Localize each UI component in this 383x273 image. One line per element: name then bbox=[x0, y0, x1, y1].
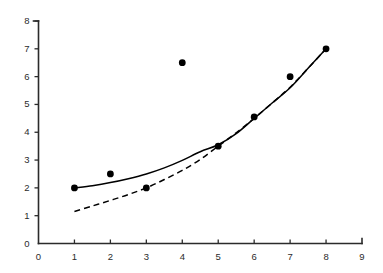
x-tick-label: 6 bbox=[252, 251, 257, 262]
fit-curve-solid bbox=[74, 49, 326, 188]
x-tick-label: 8 bbox=[323, 251, 328, 262]
y-tick-label: 0 bbox=[24, 238, 29, 249]
x-tick-label: 2 bbox=[108, 251, 113, 262]
data-point-marker bbox=[323, 45, 330, 52]
data-point-marker bbox=[143, 184, 150, 191]
fit-curve-dashed bbox=[74, 49, 326, 212]
x-tick-label: 1 bbox=[72, 251, 77, 262]
y-tick-label: 6 bbox=[24, 71, 29, 82]
data-point-marker bbox=[287, 73, 294, 80]
data-point-marker bbox=[71, 184, 78, 191]
chart-container: 012345678 0123456789 bbox=[0, 0, 383, 273]
data-point-marker bbox=[251, 114, 258, 121]
y-tick-label: 8 bbox=[24, 15, 29, 26]
y-axis-ticks: 012345678 bbox=[24, 15, 38, 249]
x-tick-label: 3 bbox=[144, 251, 149, 262]
y-tick-label: 3 bbox=[24, 154, 29, 165]
x-tick-label: 4 bbox=[180, 251, 185, 262]
y-tick-label: 2 bbox=[24, 182, 29, 193]
x-tick-label: 5 bbox=[216, 251, 221, 262]
y-tick-label: 5 bbox=[24, 98, 29, 109]
data-point-marker bbox=[179, 59, 186, 66]
y-tick-label: 7 bbox=[24, 43, 29, 54]
y-tick-label: 4 bbox=[24, 126, 29, 137]
y-tick-label: 1 bbox=[24, 210, 29, 221]
scatter-plot: 012345678 0123456789 bbox=[0, 0, 383, 273]
x-tick-label: 9 bbox=[359, 251, 364, 262]
data-point-marker bbox=[107, 171, 114, 178]
data-points bbox=[71, 45, 329, 191]
data-point-marker bbox=[215, 143, 222, 150]
x-tick-label: 0 bbox=[36, 251, 41, 262]
x-tick-label: 7 bbox=[287, 251, 292, 262]
